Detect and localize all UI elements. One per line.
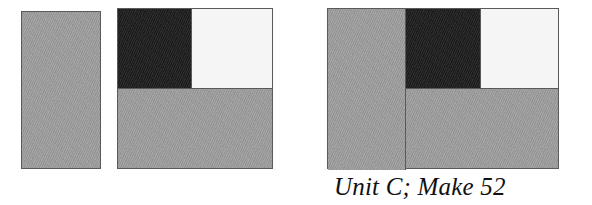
figure-two-light-quadrant — [192, 9, 272, 89]
figure-three-light-quadrant — [481, 9, 558, 89]
figure-two-quartered-square — [117, 8, 273, 169]
figure-two-dark-quadrant — [118, 9, 192, 89]
figure-canvas: Unit C; Make 52 — [0, 0, 592, 205]
figure-three-composite-assembly — [327, 8, 559, 169]
figure-three-gray-left-panel — [328, 9, 406, 170]
figure-caption: Unit C; Make 52 — [334, 172, 582, 202]
figure-three-dark-quadrant — [406, 9, 481, 89]
figure-two-gray-lower-band — [118, 89, 272, 168]
figure-three-gray-lower-band — [406, 89, 558, 168]
figure-one-unit-rectangle — [21, 11, 101, 169]
